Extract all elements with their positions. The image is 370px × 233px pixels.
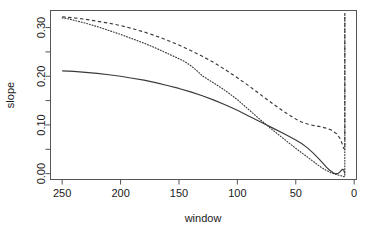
y-axis-title: slope <box>4 82 16 108</box>
x-axis-title: window <box>184 212 222 224</box>
x-tick-label-50: 50 <box>290 187 302 199</box>
x-tick-label-200: 200 <box>111 187 129 199</box>
y-tick-label-0.30: 0.30 <box>35 17 47 38</box>
chart-figure: 2502001501005000.000.100.200.30 window s… <box>0 0 370 233</box>
x-tick-label-100: 100 <box>228 187 246 199</box>
y-tick-label-0.00: 0.00 <box>35 163 47 184</box>
x-tick-label-250: 250 <box>53 187 71 199</box>
slope-vs-window-line-chart: 2502001501005000.000.100.200.30 window s… <box>0 0 370 233</box>
data-series-group <box>62 13 345 177</box>
plot-frame <box>51 11 357 180</box>
y-tick-label-0.10: 0.10 <box>35 114 47 135</box>
x-tick-label-150: 150 <box>170 187 188 199</box>
y-tick-label-0.20: 0.20 <box>35 66 47 87</box>
series-upper-dashed <box>62 13 345 149</box>
axis-tick-labels: 2502001501005000.000.100.200.30 <box>35 17 357 199</box>
series-middle-dotted <box>62 13 345 177</box>
x-tick-label-0: 0 <box>351 187 357 199</box>
axis-tick-marks <box>46 28 355 185</box>
